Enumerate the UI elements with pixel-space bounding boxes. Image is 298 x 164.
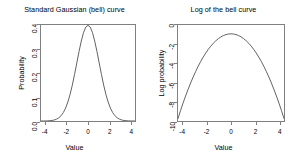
plot-area-log-gaussian: [177, 24, 285, 122]
x-tick-label: -4: [172, 128, 192, 135]
y-tick-label: 0.4: [32, 24, 39, 33]
plot-area-gaussian: [40, 24, 136, 122]
y-tick-mark: [174, 102, 177, 103]
y-tick-mark: [174, 24, 177, 25]
y-tick-mark: [37, 49, 40, 50]
x-axis-gaussian: -4 -2 0 2 4: [0, 122, 149, 142]
y-tick-mark: [37, 98, 40, 99]
x-tick-label: -2: [197, 128, 217, 135]
panel-title-gaussian: Standard Gaussian (bell) curve: [0, 5, 149, 14]
y-tick-mark: [174, 44, 177, 45]
y-tick-label: 0.3: [32, 49, 39, 58]
x-tick-label: 0: [78, 128, 98, 135]
y-tick-label: 0.2: [32, 73, 39, 82]
y-tick-mark: [37, 73, 40, 74]
panel-log-gaussian: Log of the bell curve -10 -8 -6 -4 -2 0: [149, 0, 298, 164]
x-tick-label: -2: [56, 128, 76, 135]
y-tick-label: 0.1: [32, 98, 39, 107]
x-tick-label: 2: [100, 128, 120, 135]
x-tick-label: 0: [221, 128, 241, 135]
x-tick-mark: [231, 122, 232, 125]
x-tick-label: 4: [270, 128, 290, 135]
x-tick-mark: [88, 122, 89, 125]
x-axis-label-log-gaussian: Value: [149, 143, 298, 152]
x-axis-label-gaussian: Value: [0, 143, 149, 152]
y-axis-label-log-gaussian: Log probability: [156, 24, 168, 122]
curve-gaussian: [41, 25, 135, 121]
y-tick-mark: [37, 24, 40, 25]
figure-canvas: Standard Gaussian (bell) curve 0.0 0.1 0…: [0, 0, 298, 164]
x-tick-label: -4: [35, 128, 55, 135]
curve-log-gaussian: [178, 25, 284, 121]
x-tick-mark: [110, 122, 111, 125]
y-axis-label-gaussian: Probability: [16, 24, 28, 122]
y-tick-mark: [174, 83, 177, 84]
x-tick-mark: [256, 122, 257, 125]
y-tick-mark: [174, 63, 177, 64]
panel-title-log-gaussian: Log of the bell curve: [149, 5, 298, 14]
x-tick-mark: [207, 122, 208, 125]
x-tick-mark: [66, 122, 67, 125]
x-tick-mark: [131, 122, 132, 125]
panel-gaussian: Standard Gaussian (bell) curve 0.0 0.1 0…: [0, 0, 149, 164]
x-tick-label: 4: [121, 128, 141, 135]
x-tick-mark: [182, 122, 183, 125]
x-tick-label: 2: [246, 128, 266, 135]
x-tick-mark: [45, 122, 46, 125]
x-axis-log-gaussian: -4 -2 0 2 4: [149, 122, 298, 142]
x-tick-mark: [280, 122, 281, 125]
